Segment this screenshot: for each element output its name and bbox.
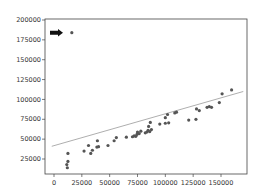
data-point <box>150 128 153 131</box>
y-tick-label: 125000 <box>16 76 41 84</box>
data-point <box>187 118 190 121</box>
data-point <box>230 88 233 91</box>
data-point <box>89 152 92 155</box>
data-point <box>125 136 128 139</box>
x-tick-label: 125000 <box>181 179 206 187</box>
data-point <box>70 31 73 34</box>
x-tick-label: 150000 <box>209 179 234 187</box>
x-tick-label: 25000 <box>71 179 92 187</box>
data-point <box>195 107 198 110</box>
data-point <box>139 130 142 133</box>
y-tick-label: 175000 <box>16 36 41 44</box>
plot-background <box>45 19 247 174</box>
data-point <box>106 144 109 147</box>
data-point <box>167 121 170 124</box>
data-point <box>65 163 68 166</box>
data-point <box>66 152 69 155</box>
data-point <box>221 92 224 95</box>
x-tick-label: 50000 <box>99 179 120 187</box>
x-axis: 0250005000075000100000125000150000 <box>52 174 233 187</box>
data-point <box>147 125 150 128</box>
data-point <box>149 121 152 124</box>
x-tick-label: 0 <box>52 179 56 187</box>
data-point <box>87 144 90 147</box>
data-point <box>164 122 167 125</box>
data-point <box>194 118 197 121</box>
y-tick-label: 150000 <box>16 56 41 64</box>
data-point <box>96 139 99 142</box>
data-point <box>164 116 167 119</box>
data-point <box>198 109 201 112</box>
data-point <box>158 122 161 125</box>
y-axis: 2500050000750001000001250001500001750002… <box>16 16 45 163</box>
y-tick-label: 50000 <box>20 135 41 143</box>
y-tick-label: 200000 <box>16 16 41 24</box>
data-point <box>97 145 100 148</box>
data-point <box>175 111 178 114</box>
data-point <box>66 166 69 169</box>
data-point <box>218 101 221 104</box>
data-point <box>166 113 169 116</box>
y-tick-label: 25000 <box>20 155 41 163</box>
data-point <box>66 160 69 163</box>
data-point <box>91 149 94 152</box>
data-point <box>210 106 213 109</box>
y-tick-label: 100000 <box>16 96 41 104</box>
x-tick-label: 75000 <box>127 179 148 187</box>
scatter-chart: 0250005000075000100000125000150000 25000… <box>0 0 261 194</box>
data-point <box>115 136 118 139</box>
data-point <box>82 149 85 152</box>
data-point <box>113 139 116 142</box>
x-tick-label: 100000 <box>153 179 178 187</box>
y-tick-label: 75000 <box>20 115 41 123</box>
